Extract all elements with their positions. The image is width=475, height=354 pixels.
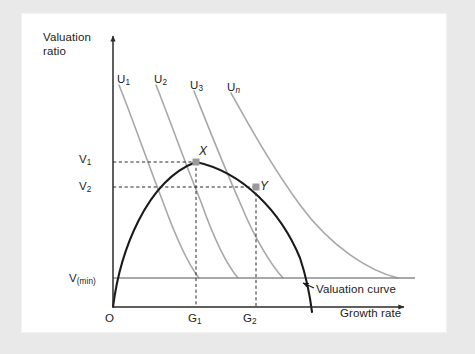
indifference-curve-u1 (119, 85, 199, 278)
screenshot-root: Valuationratio Growth rate U1 U2 U3 Un V… (0, 0, 475, 354)
indifference-curve-u3 (194, 91, 283, 278)
indifference-curve-label-un: Un (227, 80, 240, 94)
point-label-x: X (199, 144, 207, 159)
point-label-y: Y (260, 179, 268, 194)
indifference-curve-label-u2: U2 (154, 72, 167, 86)
origin-label: O (105, 311, 114, 325)
y-tick-label-v2: V2 (79, 179, 91, 193)
indifference-curve-group (119, 85, 398, 278)
indifference-curve-label-u1: U1 (117, 72, 130, 86)
y-tick-label-vmin: V(min) (69, 271, 96, 285)
x-tick-label-g2: G2 (243, 311, 257, 325)
y-axis-title: Valuationratio (43, 30, 91, 58)
x-axis-title: Growth rate (340, 306, 401, 320)
point-marker-x (193, 159, 200, 166)
indifference-curve-u2 (156, 85, 238, 278)
valuation-curve-annotation: Valuation curve (316, 282, 396, 296)
valuation-curve (113, 162, 312, 312)
y-tick-label-v1: V1 (79, 152, 91, 166)
guide-lines (113, 162, 256, 307)
y-axis-title-line1: Valuation (43, 31, 91, 43)
indifference-curve-label-u3: U3 (190, 78, 203, 92)
y-axis-title-line2: ratio (43, 45, 66, 57)
point-marker-y (253, 184, 260, 191)
x-tick-label-g1: G1 (188, 311, 202, 325)
